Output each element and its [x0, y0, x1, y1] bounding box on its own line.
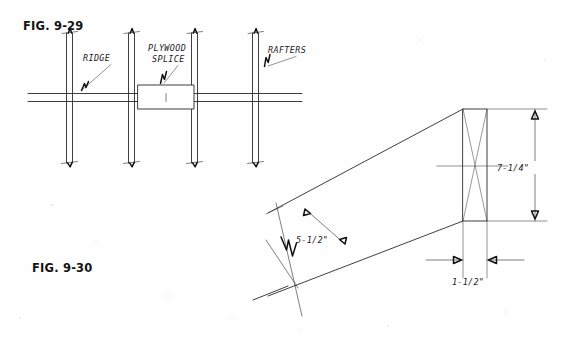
rafter-1 [62, 29, 78, 167]
fig-9-30-caption: FIG. 9-30 [32, 261, 93, 275]
callout-plywood-splice: PLYWOOD SPLICE [148, 43, 186, 84]
rafter-2 [124, 29, 140, 167]
dimension-5-1-2-label: 5-1/2" [296, 235, 328, 245]
board-end-section [463, 109, 487, 221]
board-body [253, 109, 463, 300]
figure-9-29: FIG. 9-29 [23, 19, 306, 167]
figure-9-30: FIG. 9-30 [32, 109, 547, 316]
callout-ridge: RIDGE [82, 53, 112, 91]
figures-svg: FIG. 9-29 [0, 0, 578, 340]
dimension-7-1-4: 7-1/4" [487, 109, 547, 221]
callout-rafters-label: RAFTERS [268, 45, 306, 55]
callout-rafters: RAFTERS [265, 45, 307, 67]
dimension-1-1-2-label: 1-1/2" [452, 277, 484, 287]
board-break-end [266, 203, 302, 316]
dimension-1-1-2: 1-1/2" [426, 221, 524, 287]
plywood-splice-plate [138, 85, 194, 109]
callout-plywood-splice-line1: PLYWOOD [148, 43, 186, 53]
callout-ridge-label: RIDGE [83, 53, 111, 63]
fig-9-29-caption: FIG. 9-29 [23, 19, 84, 33]
rafter-4 [248, 29, 264, 167]
drawing-sheet: FIG. 9-29 [0, 0, 578, 340]
callout-plywood-splice-line2: SPLICE [152, 54, 185, 64]
dimension-7-1-4-label: 7-1/4" [497, 163, 529, 173]
